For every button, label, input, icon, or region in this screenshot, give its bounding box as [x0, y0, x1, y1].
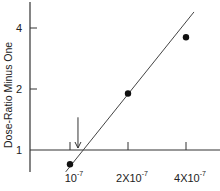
x-tick-label: 10-7	[65, 170, 84, 184]
y-tick-label: 4	[16, 22, 22, 34]
y-axis-title: Dose-Ratio Minus One	[2, 42, 14, 148]
x-tick-label: 2X10-7	[116, 170, 148, 184]
marks	[66, 12, 194, 172]
y-tick-label: 1	[16, 144, 22, 156]
y-tick-label: 2	[16, 83, 22, 95]
data-point	[125, 90, 131, 96]
x-tick-label: 4X10-7	[174, 170, 206, 184]
axes: 12410-72X10-74X10-7	[16, 2, 220, 184]
chart: 12410-72X10-74X10-7 Dose-Ratio Minus One	[0, 0, 220, 191]
data-point	[67, 161, 73, 167]
data-point	[183, 34, 189, 40]
